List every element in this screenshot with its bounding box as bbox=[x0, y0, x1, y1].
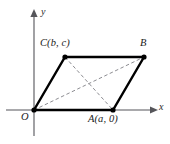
vertex-dot-o bbox=[31, 107, 36, 112]
y-axis-arrowhead bbox=[30, 9, 37, 17]
geometry-figure: O A(a, 0) C(b, c) B y x bbox=[0, 0, 170, 144]
vertex-label-origin: O bbox=[21, 112, 29, 123]
x-axis-arrowhead bbox=[150, 106, 158, 113]
y-axis-label: y bbox=[41, 7, 45, 17]
vertex-dot-c bbox=[62, 54, 67, 59]
vertex-dot-b bbox=[141, 54, 146, 59]
x-axis-label: x bbox=[159, 102, 163, 112]
vertex-dot-a bbox=[110, 107, 115, 112]
vertex-label-b: B bbox=[140, 38, 147, 49]
vertex-label-c: C(b, c) bbox=[40, 38, 70, 49]
vertex-label-a: A(a, 0) bbox=[88, 114, 118, 125]
